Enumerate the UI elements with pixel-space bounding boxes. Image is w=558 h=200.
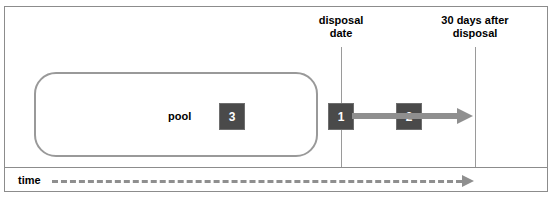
marker-label-disposal-date: disposal date — [291, 14, 391, 40]
flow-arrow-shaft — [352, 113, 463, 119]
marker-label-thirty-days-after-disposal: 30 days after disposal — [410, 14, 540, 40]
pool-label: pool — [168, 110, 191, 122]
diagram-canvas: disposal date 30 days after disposal poo… — [0, 0, 558, 200]
stage-box-1-number: 1 — [338, 110, 345, 124]
timeline-separator — [5, 167, 547, 168]
stage-box-3-number: 3 — [229, 110, 236, 124]
timeline-dashed-line — [52, 180, 462, 183]
marker-line-thirty-days-after-disposal — [475, 47, 476, 168]
stage-box-3: 3 — [219, 103, 245, 130]
stage-box-1: 1 — [328, 103, 354, 130]
timeline-arrow-head-icon — [462, 175, 474, 187]
flow-arrow-head-icon — [457, 108, 473, 124]
timeline-label: time — [18, 174, 41, 186]
